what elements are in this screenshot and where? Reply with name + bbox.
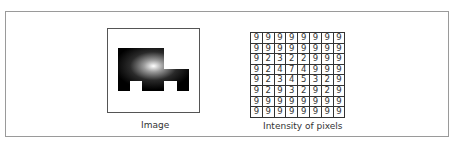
grid-cell: 9 [321,96,333,107]
grid-cell: 9 [309,85,321,96]
grid-cell: 4 [298,64,310,75]
grid-cell: 9 [262,33,274,44]
grid-cell: 9 [274,85,286,96]
grid-cell: 9 [262,96,274,107]
grid-cell: 9 [274,107,286,118]
grid-cell: 2 [298,54,310,65]
grid-row: 92322999 [251,54,345,65]
grid-cell: 9 [286,96,298,107]
image-caption: Image [141,120,169,130]
grid-row: 99999999 [251,107,345,118]
figure-frame [5,11,449,137]
grid-cell: 3 [286,85,298,96]
grid-cell: 9 [333,54,345,65]
grid-row: 99999999 [251,43,345,54]
grid-cell: 9 [309,96,321,107]
grid-cell: 9 [251,107,263,118]
grid-cell: 9 [309,54,321,65]
grid-cell: 9 [309,33,321,44]
grid-cell: 3 [309,75,321,86]
grid-cell: 9 [286,33,298,44]
grid-cell: 9 [309,64,321,75]
grid-cell: 9 [274,33,286,44]
grid-cell: 9 [333,43,345,54]
grid-cell: 9 [321,33,333,44]
grayscale-shape-image [118,48,189,91]
grid-cell: 9 [333,33,345,44]
grid-cell: 9 [333,75,345,86]
grid-cell: 9 [251,43,263,54]
grid-cell: 9 [274,43,286,54]
grid-cell: 9 [298,96,310,107]
grid-cell: 2 [262,85,274,96]
grid-cell: 9 [251,75,263,86]
grid-cell: 4 [286,75,298,86]
grid-cell: 2 [286,54,298,65]
grid-row: 99999999 [251,33,345,44]
grid-cell: 2 [262,64,274,75]
grid-cell: 7 [286,64,298,75]
grid-cell: 9 [286,43,298,54]
grid-cell: 9 [333,107,345,118]
grid-cell: 9 [333,96,345,107]
grid-cell: 9 [251,54,263,65]
grid-cell: 9 [251,96,263,107]
grid-row: 92932929 [251,85,345,96]
grid-cell: 9 [321,43,333,54]
grid-cell: 9 [333,64,345,75]
grid-cell: 3 [274,54,286,65]
grid-cell: 5 [298,75,310,86]
grid-cell: 9 [321,54,333,65]
grid-cell: 9 [309,43,321,54]
grid-cell: 4 [274,64,286,75]
grid-cell: 9 [321,64,333,75]
grid-cell: 2 [321,75,333,86]
grid-cell: 3 [274,75,286,86]
grid-cell: 9 [309,107,321,118]
grid-cell: 2 [262,54,274,65]
grid-row: 92474999 [251,64,345,75]
grid-cell: 9 [262,43,274,54]
grid-cell: 9 [298,107,310,118]
grid-caption: Intensity of pixels [263,121,343,131]
grid-row: 92345329 [251,75,345,86]
grid-cell: 9 [251,64,263,75]
grid-cell: 9 [298,43,310,54]
pixel-intensity-grid: 9999999999999999923229999247499992345329… [250,32,345,118]
grid-cell: 2 [298,85,310,96]
grid-cell: 9 [262,107,274,118]
grid-cell: 9 [321,107,333,118]
grid-cell: 9 [274,96,286,107]
grid-cell: 9 [298,33,310,44]
grid-cell: 9 [251,33,263,44]
grid-cell: 2 [262,75,274,86]
grid-cell: 2 [321,85,333,96]
grid-cell: 9 [251,85,263,96]
grid-cell: 9 [286,107,298,118]
grid-row: 99999999 [251,96,345,107]
grid-cell: 9 [333,85,345,96]
